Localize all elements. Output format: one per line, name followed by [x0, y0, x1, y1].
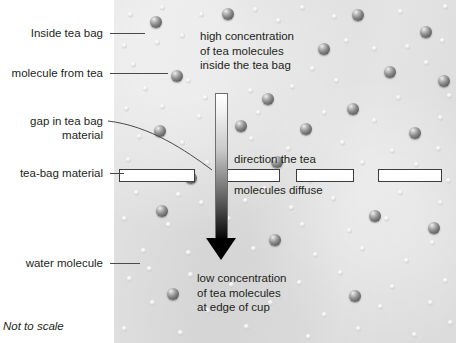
callout-inside-tea-bag-label: Inside tea bag	[0, 26, 103, 40]
water-molecule	[404, 258, 409, 263]
callout-gap-line-2: material	[0, 128, 103, 142]
water-molecule	[251, 246, 256, 251]
water-molecule	[166, 222, 171, 227]
callout-molecule-from-tea-label: molecule from tea	[0, 66, 103, 80]
water-molecule	[360, 246, 365, 251]
callout-water-molecule-label: water molecule	[0, 256, 103, 270]
water-molecule	[143, 86, 148, 91]
tea-molecule	[409, 127, 421, 139]
water-molecule	[443, 278, 448, 283]
high-concentration-note: high concentration of tea molecules insi…	[200, 29, 294, 73]
tea-molecule	[318, 43, 330, 55]
water-molecule	[390, 284, 395, 289]
high-concentration-line-1: high concentration	[200, 29, 294, 44]
tea-molecule	[150, 16, 162, 28]
water-molecule	[334, 78, 339, 83]
water-molecule	[398, 9, 403, 14]
water-molecule	[199, 12, 204, 17]
tea-molecule	[420, 26, 432, 38]
callout-molecule-from-tea-leader	[110, 73, 168, 74]
diagram-canvas: high concentration of tea molecules insi…	[0, 0, 456, 343]
high-concentration-line-3: inside the tea bag	[200, 58, 294, 73]
water-molecule	[398, 190, 403, 195]
tea-molecule	[349, 290, 361, 302]
water-molecule	[256, 110, 261, 115]
tea-molecule	[347, 103, 359, 115]
water-molecule	[188, 272, 193, 277]
water-molecule	[322, 312, 327, 317]
water-molecule	[286, 146, 291, 151]
water-molecule	[396, 95, 401, 100]
callout-tea-bag-material-leader	[110, 173, 124, 174]
diffusion-arrow-head	[206, 238, 236, 260]
tea-molecule	[171, 70, 183, 82]
water-molecule	[276, 18, 281, 23]
water-molecule	[360, 160, 365, 165]
water-molecule	[447, 93, 452, 98]
water-molecule	[249, 136, 254, 141]
tea-molecule	[156, 205, 168, 217]
tea-bag-material-bar	[119, 169, 195, 182]
water-molecule	[160, 5, 165, 10]
tea-bag-material-bar	[222, 169, 280, 182]
water-molecule	[438, 115, 443, 120]
water-molecule	[428, 300, 433, 305]
water-molecule	[384, 216, 389, 221]
water-molecule	[438, 200, 443, 205]
diffusion-arrow-shaft	[215, 93, 228, 241]
water-molecule	[186, 250, 191, 255]
water-molecule	[448, 320, 453, 325]
water-molecule	[430, 240, 435, 245]
water-molecule	[124, 106, 129, 111]
tea-molecule	[235, 120, 247, 132]
water-molecule	[203, 95, 208, 100]
water-molecule	[178, 330, 183, 335]
water-molecule	[205, 160, 210, 165]
water-molecule	[126, 157, 131, 162]
water-molecule	[150, 300, 155, 305]
water-molecule	[180, 140, 185, 145]
low-concentration-line-1: low concentration	[197, 271, 287, 286]
direction-note-bottom: molecules diffuse	[234, 183, 323, 198]
water-molecule	[131, 62, 136, 67]
water-molecule	[199, 200, 204, 205]
high-concentration-line-2: of tea molecules	[200, 44, 294, 59]
callout-water-molecule-leader	[110, 263, 140, 264]
water-molecule	[243, 198, 248, 203]
water-molecule	[313, 252, 318, 257]
water-molecule	[186, 78, 191, 83]
direction-note-top: direction the tea	[234, 152, 316, 167]
callout-tea-bag-material-label: tea-bag material	[0, 166, 103, 180]
water-molecule	[322, 110, 327, 115]
water-molecule	[290, 84, 295, 89]
water-molecule	[155, 40, 160, 45]
tea-molecule	[154, 125, 166, 137]
callout-gap-line-1: gap in tea bag	[0, 114, 103, 128]
low-concentration-note: low concentration of tea molecules at ed…	[197, 271, 287, 315]
water-molecule	[440, 38, 445, 43]
water-molecule	[141, 248, 146, 253]
water-molecule	[424, 60, 429, 65]
water-molecule	[128, 12, 133, 17]
water-molecule	[300, 5, 305, 10]
water-molecule	[443, 4, 448, 9]
tea-bag-material-bar	[296, 169, 354, 182]
water-molecule	[332, 14, 337, 19]
water-molecule	[412, 332, 417, 337]
water-molecule	[297, 280, 302, 285]
water-molecule	[340, 140, 345, 145]
water-molecule	[127, 276, 132, 281]
tea-molecule	[384, 66, 396, 78]
water-molecule	[390, 148, 395, 153]
tea-molecule	[269, 234, 281, 246]
water-molecule	[372, 118, 377, 123]
water-molecule	[310, 66, 315, 71]
not-to-scale-footnote: Not to scale	[3, 320, 64, 332]
water-molecule	[248, 88, 253, 93]
water-molecule	[137, 134, 142, 139]
tea-molecule	[369, 210, 381, 222]
tea-molecule	[438, 75, 450, 87]
water-molecule	[197, 114, 202, 119]
tea-bag-material-bar	[378, 169, 442, 182]
water-molecule	[253, 7, 258, 12]
